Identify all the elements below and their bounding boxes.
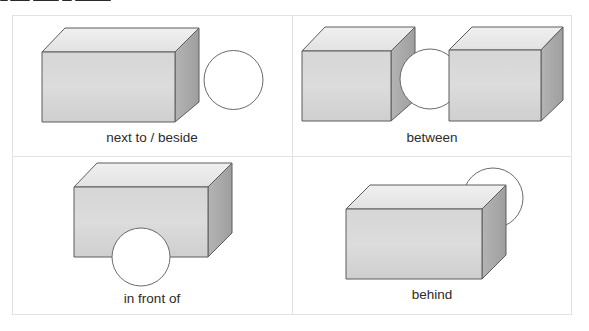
panel-between [302, 27, 563, 121]
illustration-canvas [0, 0, 589, 331]
box [42, 28, 199, 122]
sphere [204, 51, 263, 110]
panel-in-front-of [74, 163, 232, 286]
label-between: between [406, 130, 457, 145]
box-left [302, 27, 415, 121]
sphere [112, 228, 170, 286]
label-behind: behind [412, 287, 453, 302]
panel-behind [346, 168, 523, 279]
label-in-front-of: in front of [124, 291, 180, 306]
box [346, 185, 506, 279]
label-next-to: next to / beside [106, 130, 198, 145]
panel-next-to [42, 28, 263, 122]
box-right [449, 27, 563, 121]
